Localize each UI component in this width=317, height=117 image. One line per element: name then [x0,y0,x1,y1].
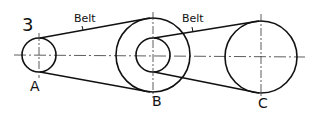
pulley-label-c: C [258,95,268,111]
pulley-c [225,14,297,98]
pulley-label-b: B [152,93,162,109]
belt-label-2: Belt [182,12,204,25]
figure-number: 3 [22,14,33,35]
belt-pulley-diagram: 3 Belt Belt A B C [0,0,317,117]
belt-label-1: Belt [74,12,96,25]
pulley-label-a: A [30,78,40,94]
pulley-b [116,12,190,98]
